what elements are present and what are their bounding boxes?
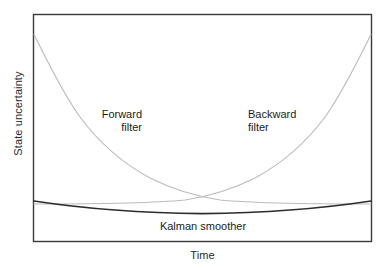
x-axis-label: Time xyxy=(33,249,372,261)
y-axis-label: State uncertainty xyxy=(10,0,26,248)
backward-filter-label: Backward filter xyxy=(248,108,338,134)
figure-container: State uncertainty Time Forward filter Ba… xyxy=(0,0,390,269)
kalman-smoother-label: Kalman smoother xyxy=(113,220,293,233)
forward-filter-label: Forward filter xyxy=(62,108,142,134)
